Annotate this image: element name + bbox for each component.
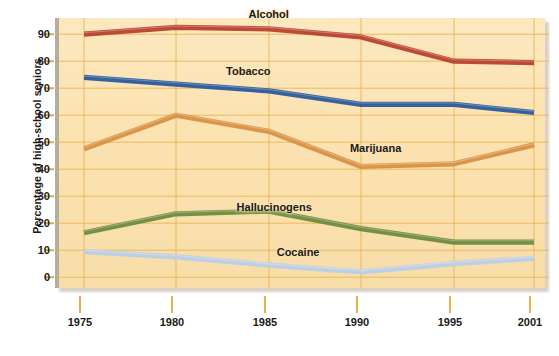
x-tick-label: 1975 (50, 316, 110, 328)
x-tick-mark (264, 296, 266, 313)
y-tick-label: 80 (16, 56, 50, 67)
y-axis-tick-labels: 0102030405060708090 (10, 18, 50, 288)
y-tick-label: 10 (16, 245, 50, 256)
drug-use-line-chart: Percentage of high-school seniors 010203… (0, 0, 559, 356)
x-tick-label: 1985 (235, 316, 295, 328)
y-tick-label: 90 (16, 29, 50, 40)
y-tick-label: 50 (16, 137, 50, 148)
x-tick-label: 1980 (142, 316, 202, 328)
y-tick-label: 70 (16, 83, 50, 94)
series-label-alcohol: Alcohol (249, 8, 289, 20)
x-tick-mark (171, 296, 173, 313)
x-tick-label: 1990 (327, 316, 387, 328)
y-tick-label: 20 (16, 218, 50, 229)
x-tick-label: 2001 (500, 316, 559, 328)
x-tick-mark (449, 296, 451, 313)
x-axis-tick-labels: 197519801985199019952001 (0, 296, 559, 336)
x-tick-label: 1995 (420, 316, 480, 328)
y-tick-label: 30 (16, 191, 50, 202)
series-label-marijuana: Marijuana (350, 142, 401, 154)
series-label-hallucinogens: Hallucinogens (237, 201, 312, 213)
series-label-cocaine: Cocaine (277, 246, 320, 258)
y-tick-label: 0 (16, 272, 50, 283)
series-label-tobacco: Tobacco (226, 65, 270, 77)
x-tick-mark (79, 296, 81, 313)
y-tick-label: 40 (16, 164, 50, 175)
x-tick-mark (529, 296, 531, 313)
y-tick-label: 60 (16, 110, 50, 121)
x-tick-mark (356, 296, 358, 313)
